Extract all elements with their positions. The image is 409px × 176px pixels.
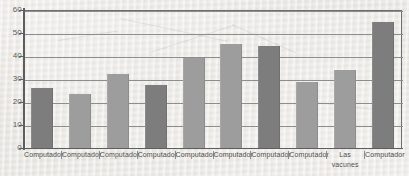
x-axis-category-label: Computador — [289, 150, 325, 160]
bar-fill — [69, 94, 91, 148]
x-axis-category-label: Computador — [214, 150, 250, 160]
x-axis-category-label: Computador — [251, 150, 287, 160]
x-axis-category-label: Computador — [176, 150, 212, 160]
bar — [296, 82, 318, 148]
bar-fill — [31, 88, 53, 148]
scanned-chart-page: 6050403020100 ComputadorComputadorComput… — [0, 0, 409, 176]
bar-fill — [107, 74, 129, 148]
bar — [183, 58, 205, 148]
bar-fill — [296, 82, 318, 148]
bar-fill — [334, 70, 356, 148]
y-axis-tick-mark — [19, 148, 23, 149]
bar — [31, 88, 53, 148]
bar — [220, 44, 242, 148]
x-axis-category-label: Computador — [365, 150, 401, 160]
x-axis-category-label: Computador — [62, 150, 98, 160]
bar-fill — [145, 85, 167, 148]
x-axis-category-labels: ComputadorComputadorComputadorComputador… — [23, 150, 403, 176]
bar-series — [23, 10, 402, 149]
bar-fill — [372, 22, 394, 148]
bar-fill — [183, 58, 205, 148]
bar — [145, 85, 167, 148]
x-axis-category-label: Computador — [24, 150, 60, 160]
bar — [107, 74, 129, 148]
bar — [372, 22, 394, 148]
x-axis-category-label: Computador — [100, 150, 136, 160]
x-axis-category-label: Computador — [138, 150, 174, 160]
bar — [334, 70, 356, 148]
bar — [69, 94, 91, 148]
bar — [258, 46, 280, 148]
bar-fill — [258, 46, 280, 148]
bar-fill — [220, 44, 242, 148]
x-axis-category-label: Las vacunes — [327, 150, 363, 169]
